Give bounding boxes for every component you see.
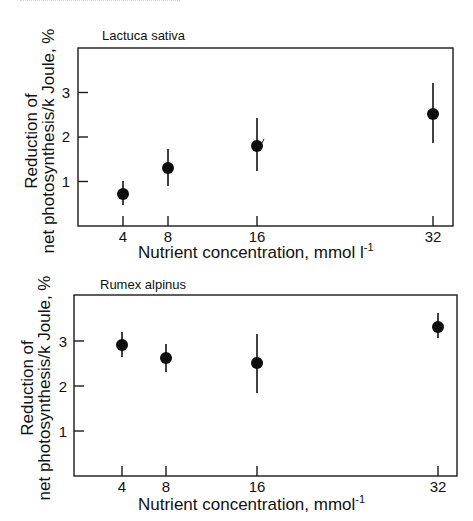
plot-frame bbox=[78, 48, 453, 226]
y-axis-label-line2: net photosynthesis/k Joule, % bbox=[39, 29, 58, 254]
chart-lactuca-sativa: Reduction of net photosynthesis/k Joule,… bbox=[22, 28, 453, 262]
x-tick-label: 32 bbox=[425, 228, 442, 245]
x-tick-label: 16 bbox=[249, 478, 266, 495]
chart-rumex-alpinus: Reduction of net photosynthesis/k Joule,… bbox=[18, 276, 457, 514]
x-axis: 4 8 16 32 Nutrient concentration, mmol l… bbox=[119, 216, 442, 262]
chart-title: Lactuca sativa bbox=[102, 28, 186, 43]
x-axis-label: Nutrient concentration, mmol l-1 bbox=[138, 241, 374, 262]
y-axis: 1 2 3 bbox=[62, 84, 88, 190]
y-tick-label: 2 bbox=[59, 378, 67, 395]
y-axis: 1 2 3 bbox=[59, 333, 84, 440]
data-point bbox=[117, 188, 129, 200]
y-axis-label-line2: net photosynthesis/k Joule, % bbox=[35, 276, 54, 501]
stray-mark bbox=[262, 139, 264, 143]
data-series bbox=[117, 83, 439, 205]
data-series bbox=[116, 313, 444, 393]
x-axis: 4 8 16 32 Nutrient concentration, mmol-1 bbox=[118, 466, 447, 514]
y-tick-label: 2 bbox=[62, 128, 70, 145]
figure: Reduction of net photosynthesis/k Joule,… bbox=[0, 0, 473, 521]
x-tick-label: 8 bbox=[162, 478, 170, 495]
x-tick-label: 4 bbox=[118, 478, 126, 495]
data-point bbox=[116, 339, 128, 351]
data-point bbox=[432, 321, 444, 333]
data-point bbox=[251, 357, 263, 369]
data-point bbox=[162, 162, 174, 174]
y-tick-label: 1 bbox=[62, 173, 70, 190]
plot-frame bbox=[74, 295, 457, 476]
x-tick-label: 32 bbox=[430, 478, 447, 495]
x-axis-label: Nutrient concentration, mmol-1 bbox=[138, 493, 365, 514]
y-tick-label: 3 bbox=[59, 333, 67, 350]
data-point bbox=[427, 108, 439, 120]
data-point bbox=[251, 140, 263, 152]
chart-title: Rumex alpinus bbox=[100, 277, 186, 292]
y-tick-label: 3 bbox=[62, 84, 70, 101]
data-point bbox=[160, 352, 172, 364]
x-tick-label: 4 bbox=[119, 228, 127, 245]
y-tick-label: 1 bbox=[59, 423, 67, 440]
